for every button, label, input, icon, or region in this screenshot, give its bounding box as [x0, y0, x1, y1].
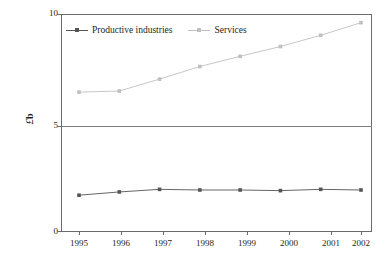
- series-layer: [61, 14, 372, 232]
- y-tick-label-10: 10: [32, 8, 58, 18]
- data-point: [319, 33, 323, 37]
- data-point: [359, 21, 363, 25]
- legend-label-productive-industries: Productive industries: [92, 26, 172, 36]
- chart-legend: Productive industries Services: [66, 26, 247, 36]
- y-tick-label-0: 0: [32, 226, 58, 236]
- data-point: [77, 193, 81, 197]
- x-tick-label-1996: 1996: [101, 238, 141, 248]
- legend-item-productive-industries[interactable]: Productive industries: [66, 26, 172, 36]
- data-point: [77, 90, 81, 94]
- data-point: [279, 45, 283, 49]
- data-point: [198, 188, 202, 192]
- legend-marker-services: [188, 26, 210, 35]
- x-tick-label-1998: 1998: [185, 238, 225, 248]
- y-tick-label-5: 5: [32, 120, 58, 130]
- data-point: [117, 89, 121, 93]
- data-point: [238, 55, 242, 59]
- data-point: [158, 188, 162, 192]
- x-tick-label-2002: 2002: [341, 238, 381, 248]
- series-productive-industries: [77, 188, 363, 197]
- x-tick-label-1995: 1995: [59, 238, 99, 248]
- x-tick-label-1999: 1999: [227, 238, 267, 248]
- data-point: [198, 65, 202, 69]
- legend-marker-productive-industries: [66, 26, 88, 35]
- x-tick-label-2000: 2000: [269, 238, 309, 248]
- data-point: [279, 189, 283, 193]
- data-point: [158, 77, 162, 81]
- legend-label-services: Services: [214, 26, 246, 36]
- x-tick-label-1997: 1997: [143, 238, 183, 248]
- data-point: [117, 190, 121, 194]
- y-axis-tick-labels: 10 5 0: [30, 0, 58, 265]
- plot-area: [61, 14, 372, 232]
- data-point: [319, 188, 323, 192]
- data-point: [238, 188, 242, 192]
- line-chart: £b 10 5 0 1995 1996 1997 1998 1999 2000 …: [0, 0, 384, 265]
- data-point: [359, 188, 363, 192]
- legend-item-services[interactable]: Services: [188, 26, 246, 36]
- series-line: [79, 189, 361, 195]
